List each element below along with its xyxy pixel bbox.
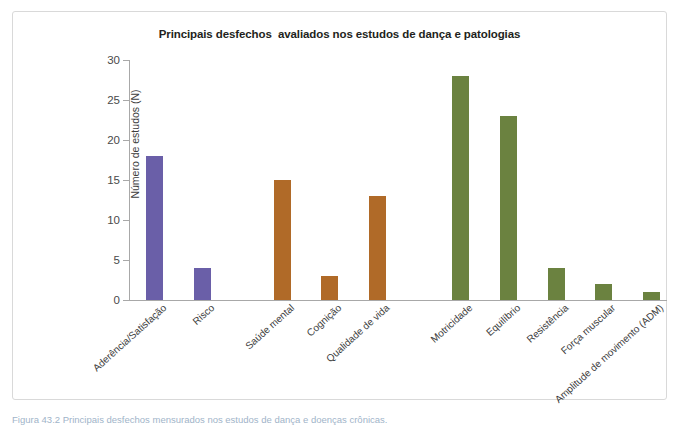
bar	[548, 268, 565, 300]
x-axis-labels: Aderência/SatisfaçãoRiscoSaúde mentalCog…	[129, 302, 667, 428]
bar	[146, 156, 163, 300]
bar	[500, 116, 517, 300]
bar	[274, 180, 291, 300]
y-tick-label: 0	[114, 294, 120, 306]
x-axis-label: Aderência/Satisfação	[91, 302, 169, 373]
bars-layer	[129, 60, 667, 300]
figure-caption: Figura 43.2 Principais desfechos mensura…	[12, 414, 672, 425]
x-axis-line	[129, 300, 667, 301]
x-axis-label: Resistência	[525, 302, 571, 345]
x-axis-label: Equilíbrio	[484, 302, 522, 338]
y-tick-label: 10	[107, 214, 120, 226]
bar	[321, 276, 338, 300]
bar	[369, 196, 386, 300]
plot-area: Número de estudos (N) 051015202530 Aderê…	[129, 60, 667, 300]
x-axis-label: Cognição	[305, 302, 344, 338]
y-tick-label: 20	[107, 134, 120, 146]
bar	[595, 284, 612, 300]
bar	[194, 268, 211, 300]
bar	[452, 76, 469, 300]
y-tick-label: 5	[114, 254, 120, 266]
y-tick-label: 25	[107, 94, 120, 106]
x-axis-label: Saúde mental	[243, 302, 296, 351]
x-axis-label: Risco	[190, 302, 216, 327]
y-tick-mark	[123, 300, 129, 301]
figure-frame: Principais desfechos avaliados nos estud…	[12, 11, 667, 400]
bar	[643, 292, 660, 300]
chart-title: Principais desfechos avaliados nos estud…	[13, 28, 666, 40]
y-tick-label: 30	[107, 54, 120, 66]
x-axis-label: Motricidade	[429, 302, 475, 345]
y-tick-label: 15	[107, 174, 120, 186]
